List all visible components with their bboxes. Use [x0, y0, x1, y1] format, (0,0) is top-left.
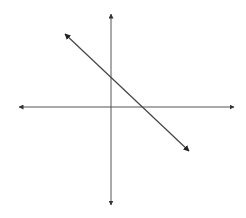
graph-canvas — [0, 0, 246, 218]
coordinate-plane — [0, 0, 246, 218]
negative-slope-line — [65, 34, 189, 151]
